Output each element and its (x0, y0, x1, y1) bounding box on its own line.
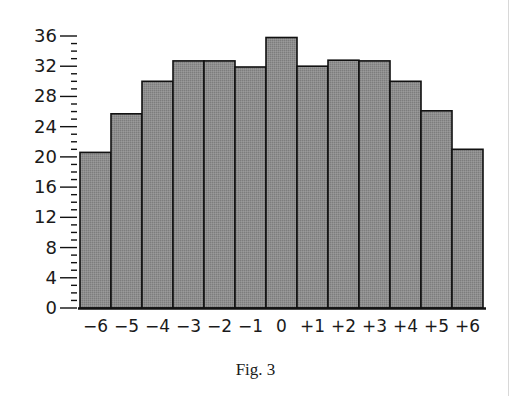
x-tick-label: −1 (238, 316, 263, 336)
y-tick-label: 24 (34, 116, 57, 137)
bar (328, 60, 359, 308)
bar (111, 114, 142, 308)
x-tick-label: −4 (145, 316, 170, 336)
x-tick-label: 0 (276, 316, 287, 336)
bar (421, 111, 452, 308)
x-axis: −6−5−4−3−2−10+1+2+3+4+5+6 (78, 309, 486, 337)
bar (173, 61, 204, 308)
bars-group (80, 38, 483, 309)
y-tick-label: 8 (46, 237, 57, 258)
y-tick-label: 36 (34, 25, 57, 46)
bar (80, 152, 111, 308)
x-tick-label: −6 (83, 316, 108, 336)
bar (142, 81, 173, 308)
x-tick-label: +3 (362, 316, 387, 336)
x-tick-label: +5 (424, 316, 449, 336)
y-tick-label: 20 (34, 146, 57, 167)
bar (359, 61, 390, 308)
y-tick-label: 12 (34, 206, 57, 227)
y-tick-label: 0 (46, 297, 57, 318)
x-tick-label: +1 (300, 316, 325, 336)
y-tick-label: 32 (34, 55, 57, 76)
bar (266, 38, 297, 309)
y-tick-label: 28 (34, 85, 57, 106)
figure-caption: Fig. 3 (0, 360, 511, 380)
page-edge-divider (508, 0, 509, 396)
x-tick-label: −3 (176, 316, 201, 336)
x-tick-label: −2 (207, 316, 232, 336)
histogram-chart: 04812162024283236 −6−5−4−3−2−10+1+2+3+4+… (0, 0, 511, 396)
x-tick-label: +4 (393, 316, 418, 336)
x-tick-label: +6 (455, 316, 480, 336)
y-axis: 04812162024283236 (34, 25, 77, 318)
bar (204, 61, 235, 308)
y-tick-label: 4 (46, 267, 57, 288)
x-tick-label: −5 (114, 316, 139, 336)
x-tick-label: +2 (331, 316, 356, 336)
bar (235, 67, 266, 308)
bar (452, 149, 483, 308)
bar (390, 81, 421, 308)
y-tick-label: 16 (34, 176, 57, 197)
bar (297, 66, 328, 308)
